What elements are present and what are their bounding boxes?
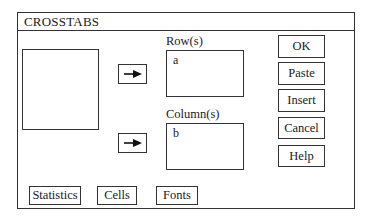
ok-button[interactable]: OK [278, 35, 325, 58]
dialog-title: CROSSTABS [24, 14, 99, 30]
cancel-button[interactable]: Cancel [278, 117, 325, 139]
move-to-columns-button[interactable] [118, 133, 147, 153]
columns-list-item[interactable]: b [173, 126, 179, 141]
fonts-button[interactable]: Fonts [156, 186, 198, 205]
help-button[interactable]: Help [278, 145, 325, 167]
columns-list[interactable]: b [166, 123, 244, 170]
rows-list[interactable]: a [166, 50, 244, 97]
cells-button[interactable]: Cells [97, 186, 137, 205]
rows-list-item[interactable]: a [173, 53, 178, 68]
rows-label: Row(s) [166, 34, 203, 49]
statistics-button[interactable]: Statistics [29, 186, 81, 205]
paste-button[interactable]: Paste [278, 62, 325, 85]
arrow-right-icon [123, 138, 143, 148]
source-variable-list[interactable] [22, 49, 99, 130]
insert-button[interactable]: Insert [278, 89, 325, 112]
columns-label: Column(s) [166, 107, 219, 122]
move-to-rows-button[interactable] [118, 64, 147, 84]
arrow-right-icon [123, 69, 143, 79]
